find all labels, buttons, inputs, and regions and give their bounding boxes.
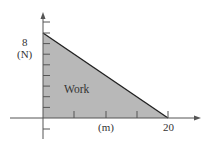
y-tick-label: 8 <box>22 37 28 48</box>
x-tick-label: 20 <box>163 122 174 133</box>
x-axis-arrow-icon <box>194 116 201 121</box>
work-label: Work <box>64 84 89 96</box>
x-axis-unit: (m) <box>98 122 114 133</box>
y-axis-unit: (N) <box>17 49 32 60</box>
y-axis-arrow-icon <box>41 12 46 19</box>
